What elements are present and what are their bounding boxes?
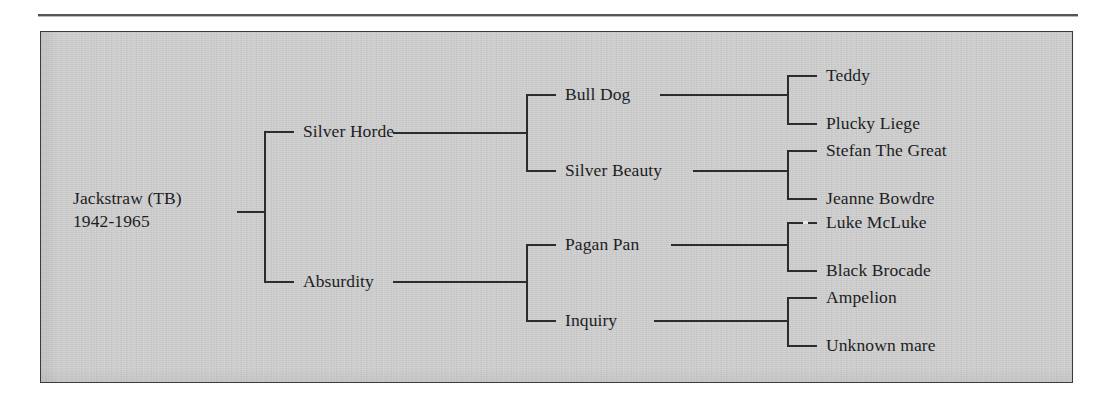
node-absurdity: Absurdity xyxy=(303,271,374,292)
top-horizontal-rule xyxy=(38,14,1078,16)
pedigree-panel: Jackstraw (TB) 1942-1965 Silver Horde Ab… xyxy=(40,31,1073,383)
node-teddy: Teddy xyxy=(826,65,870,86)
node-root-years: 1942-1965 xyxy=(73,210,182,233)
node-root: Jackstraw (TB) 1942-1965 xyxy=(73,187,182,233)
node-jeanne-bowdre: Jeanne Bowdre xyxy=(826,188,935,209)
node-silver-beauty: Silver Beauty xyxy=(565,160,662,181)
pedigree-figure-page: Jackstraw (TB) 1942-1965 Silver Horde Ab… xyxy=(0,0,1113,404)
node-inquiry: Inquiry xyxy=(565,310,617,331)
node-labels-layer: Jackstraw (TB) 1942-1965 Silver Horde Ab… xyxy=(41,32,1072,382)
node-root-name: Jackstraw (TB) xyxy=(73,188,182,208)
node-pagan-pan: Pagan Pan xyxy=(565,234,639,255)
node-luke-mcluke: Luke McLuke xyxy=(826,212,927,233)
node-unknown-mare: Unknown mare xyxy=(826,335,936,356)
node-plucky-liege: Plucky Liege xyxy=(826,113,920,134)
node-bull-dog: Bull Dog xyxy=(565,84,630,105)
node-silver-horde: Silver Horde xyxy=(303,121,394,142)
node-black-brocade: Black Brocade xyxy=(826,260,931,281)
node-stefan-the-great: Stefan The Great xyxy=(826,140,947,161)
node-ampelion: Ampelion xyxy=(826,287,897,308)
